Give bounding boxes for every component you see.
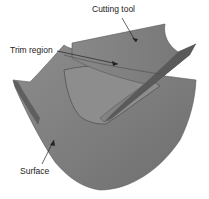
label-cutting-tool: Cutting tool	[92, 5, 135, 14]
label-trim-region: Trim region	[10, 46, 53, 55]
label-surface: Surface	[20, 167, 49, 176]
diagram-canvas: Cutting tool Trim region Surface	[0, 0, 209, 199]
